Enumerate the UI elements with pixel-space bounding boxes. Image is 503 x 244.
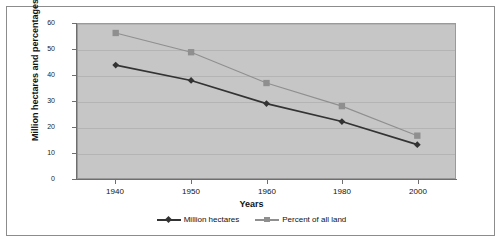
square-marker-icon (113, 30, 119, 36)
square-marker-icon (339, 103, 345, 109)
y-tick-mark (72, 127, 76, 128)
y-tick-label: 0 (15, 175, 55, 183)
y-tick-mark (72, 75, 76, 76)
legend-label: Percent of all land (282, 215, 346, 224)
diamond-marker-icon (165, 215, 172, 222)
diamond-marker-icon (188, 77, 195, 84)
x-tick-mark (418, 180, 419, 184)
x-tick-label: 2000 (388, 187, 448, 196)
square-marker-icon (263, 80, 269, 86)
x-tick-label: 1950 (161, 187, 221, 196)
diamond-marker-icon (112, 62, 119, 69)
y-axis-line (76, 23, 77, 180)
plot-area (77, 23, 456, 179)
series-diamond (112, 62, 420, 148)
y-tick-mark (72, 153, 76, 154)
x-tick-mark (267, 180, 268, 184)
square-marker-icon (414, 132, 420, 138)
series-square (113, 30, 421, 139)
x-tick-label: 1960 (237, 187, 297, 196)
square-marker-icon (264, 217, 270, 223)
diamond-marker-icon (414, 141, 421, 148)
square-marker-icon (188, 49, 194, 55)
line-chart: 0102030405060 Million hectares and perce… (7, 7, 496, 237)
series-layer (78, 24, 455, 178)
legend-label: Million hectares (184, 215, 240, 224)
legend-entry[interactable]: Million hectares (157, 215, 240, 224)
x-tick-label: 1980 (312, 187, 372, 196)
x-axis-title: Years (7, 199, 496, 209)
legend-swatch (157, 215, 181, 224)
legend-entry[interactable]: Percent of all land (255, 215, 346, 224)
y-tick-mark (72, 101, 76, 102)
x-tick-mark (342, 180, 343, 184)
x-tick-label: 1940 (85, 187, 145, 196)
legend-swatch (255, 215, 279, 224)
x-tick-mark (191, 180, 192, 184)
y-tick-label: 10 (15, 149, 55, 157)
diamond-marker-icon (339, 118, 346, 125)
y-tick-mark (72, 23, 76, 24)
figure-frame: 0102030405060 Million hectares and perce… (6, 6, 495, 236)
diamond-marker-icon (263, 100, 270, 107)
y-axis-title: Million hectares and percentages (30, 0, 40, 150)
y-tick-mark (72, 49, 76, 50)
x-tick-mark (115, 180, 116, 184)
chart-legend: Million hectaresPercent of all land (7, 215, 496, 224)
